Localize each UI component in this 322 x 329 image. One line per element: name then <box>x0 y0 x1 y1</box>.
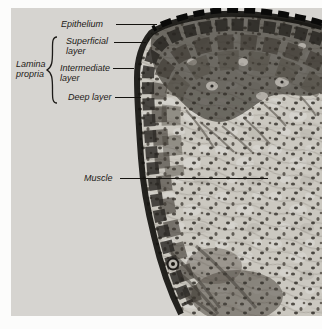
label-lamina-propria: Lamina propria <box>16 59 46 79</box>
leader-line-intermediate <box>113 68 134 69</box>
label-superficial-line2: layer <box>66 47 108 57</box>
label-lamina-line2: propria <box>16 69 46 79</box>
lamina-propria-brace <box>46 36 58 104</box>
label-epithelium-text: Epithelium <box>61 20 103 30</box>
label-muscle-text: Muscle <box>84 174 113 184</box>
leader-line-epithelium <box>116 24 157 25</box>
label-deep-layer-text: Deep layer <box>68 93 112 103</box>
label-superficial-layer: Superficial layer <box>66 37 108 56</box>
label-deep-layer: Deep layer <box>68 93 112 103</box>
leader-line-deep <box>115 97 141 98</box>
label-lamina-line1: Lamina <box>16 59 46 69</box>
label-muscle: Muscle <box>84 174 113 184</box>
label-intermediate-layer: Intermediate layer <box>60 64 110 83</box>
label-epithelium: Epithelium <box>61 20 103 30</box>
label-intermediate-line2: layer <box>60 74 110 84</box>
leader-line-muscle <box>120 178 268 179</box>
histology-figure: Epithelium Superficial layer Intermediat… <box>0 0 322 329</box>
leader-line-superficial <box>114 42 146 43</box>
